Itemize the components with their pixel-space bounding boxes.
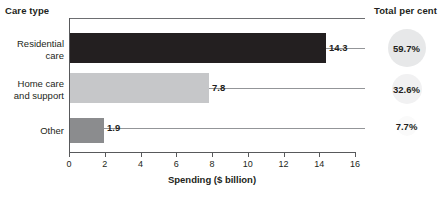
percent-value: 7.7% <box>396 121 418 132</box>
x-tick-14 <box>319 152 320 157</box>
total-per-cent-residential-care: 59.7% <box>368 29 445 67</box>
care-type-header: Care type <box>5 5 49 16</box>
x-axis-title: Spending ($ billion) <box>69 174 355 185</box>
x-tick-label-14: 14 <box>314 159 324 169</box>
total-per-cent-header: Total per cent <box>374 5 437 16</box>
category-label-line1: Home care <box>14 78 64 90</box>
x-tick-label-12: 12 <box>278 159 288 169</box>
category-label-residential-care: Residential care <box>17 38 64 61</box>
bar-residential-care <box>70 33 326 63</box>
x-tick-label-10: 10 <box>243 159 253 169</box>
bar-value-home-care-and-support: 7.8 <box>212 82 225 93</box>
x-tick-label-4: 4 <box>138 159 143 169</box>
total-per-cent-home-care-and-support: 32.6% <box>368 74 445 104</box>
total-per-cent-other: 7.7% <box>368 116 445 136</box>
category-label-home-care-and-support: Home care and support <box>14 78 64 101</box>
x-tick-label-8: 8 <box>209 159 214 169</box>
category-label-other: Other <box>40 125 64 137</box>
bar-chart: Care type Total per cent Residential car… <box>0 0 445 203</box>
x-tick-label-0: 0 <box>66 159 71 169</box>
x-tick-16 <box>355 152 356 157</box>
x-tick-label-6: 6 <box>174 159 179 169</box>
x-tick-8 <box>212 152 213 157</box>
x-tick-6 <box>176 152 177 157</box>
x-tick-label-2: 2 <box>102 159 107 169</box>
category-label-line2: care <box>17 50 64 62</box>
x-tick-label-16: 16 <box>350 159 360 169</box>
bar-other <box>70 118 104 143</box>
category-label-line2: and support <box>14 90 64 102</box>
percent-value: 59.7% <box>393 43 420 54</box>
bar-value-residential-care: 14.3 <box>329 42 348 53</box>
x-tick-4 <box>141 152 142 157</box>
category-label-line1: Residential <box>17 38 64 50</box>
x-tick-12 <box>284 152 285 157</box>
x-tick-0 <box>69 152 70 157</box>
x-tick-2 <box>105 152 106 157</box>
x-tick-10 <box>248 152 249 157</box>
bar-value-other: 1.9 <box>107 122 120 133</box>
bar-home-care-and-support <box>70 73 209 103</box>
percent-value: 32.6% <box>393 84 420 95</box>
category-label-line1: Other <box>40 125 64 137</box>
